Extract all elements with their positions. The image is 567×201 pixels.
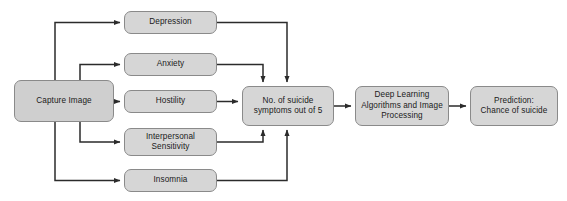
flowchart-diagram: Capture Image Depression Anxiety Hostili… — [0, 0, 567, 201]
node-deep-learning-label: Deep Learning Algorithms and Image Proce… — [361, 90, 443, 122]
node-capture-image-label: Capture Image — [36, 96, 91, 107]
node-insomnia-label: Insomnia — [153, 175, 187, 186]
node-suicide-symptoms-label: No. of suicide symptoms out of 5 — [254, 96, 323, 117]
node-anxiety[interactable]: Anxiety — [124, 53, 217, 76]
node-anxiety-label: Anxiety — [157, 59, 185, 70]
node-hostility-label: Hostility — [156, 96, 186, 107]
node-depression-label: Depression — [149, 17, 191, 28]
node-suicide-symptoms[interactable]: No. of suicide symptoms out of 5 — [242, 86, 334, 126]
edge-interpersonal-sensitivity-to-suicide-symptoms — [217, 130, 263, 142]
node-interpersonal-sensitivity-label: Interpersonal Sensitivity — [146, 132, 195, 153]
node-hostility[interactable]: Hostility — [124, 90, 217, 113]
node-insomnia[interactable]: Insomnia — [124, 169, 217, 192]
node-prediction-label: Prediction: Chance of suicide — [481, 96, 548, 117]
edge-capture-to-depression — [55, 23, 120, 81]
node-prediction[interactable]: Prediction: Chance of suicide — [470, 86, 558, 126]
node-deep-learning[interactable]: Deep Learning Algorithms and Image Proce… — [355, 86, 449, 126]
edge-anxiety-to-suicide-symptoms — [217, 65, 263, 83]
edge-capture-to-anxiety — [80, 65, 120, 81]
edge-depression-to-suicide-symptoms — [217, 23, 287, 83]
node-capture-image[interactable]: Capture Image — [14, 80, 114, 122]
edge-capture-to-insomnia — [55, 122, 120, 181]
node-interpersonal-sensitivity[interactable]: Interpersonal Sensitivity — [124, 128, 217, 156]
edge-insomnia-to-suicide-symptoms — [217, 130, 287, 181]
edge-capture-to-interpersonal-sensitivity — [80, 122, 120, 142]
node-depression[interactable]: Depression — [124, 11, 217, 34]
